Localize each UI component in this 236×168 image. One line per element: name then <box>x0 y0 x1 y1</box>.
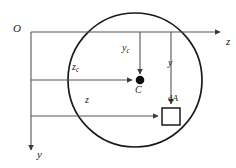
origin-label: O <box>13 23 21 34</box>
yc-subscript: c <box>126 47 129 55</box>
area-element-square <box>162 108 180 125</box>
zc-subscript: c <box>76 66 79 74</box>
diagram-canvas <box>0 0 236 168</box>
yc-dimension-label: yc <box>122 43 130 55</box>
y-dimension-label: y <box>168 58 172 68</box>
centroid-diagram-figure: O z y yc zc C y z dA <box>0 0 236 168</box>
area-element-label: dA <box>168 94 178 103</box>
z-dimension-label: z <box>85 95 89 105</box>
centroid-label: C <box>135 85 142 95</box>
centroid-marker-dot <box>136 76 145 85</box>
zc-dimension-label: zc <box>72 62 79 74</box>
area-element-symbol: A <box>173 93 179 103</box>
y-axis-label: y <box>37 149 42 160</box>
z-axis-label: z <box>226 36 230 47</box>
